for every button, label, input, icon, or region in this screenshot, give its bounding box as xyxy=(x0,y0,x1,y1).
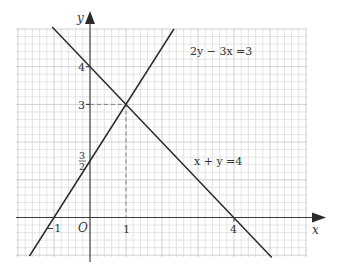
y-tick-label-4: 4 xyxy=(78,61,85,74)
y-tick-label-3: 3 xyxy=(78,99,85,112)
intersection-guide-lines xyxy=(90,104,126,217)
x-tick-label-1: 1 xyxy=(123,223,130,236)
y-axis-arrow-icon xyxy=(85,11,95,24)
x-axis-arrow-icon xyxy=(312,213,326,223)
origin-label: O xyxy=(78,221,88,235)
x-tick-label-neg1: −1 xyxy=(45,222,61,235)
y-axis-label: y xyxy=(76,11,84,25)
graph-canvas: y x O −1 1 4 4 3 3 2 2y − 3x =3 x + y =4 xyxy=(0,0,339,271)
fraction-numerator: 3 xyxy=(79,150,85,161)
x-axis-label: x xyxy=(312,223,319,237)
line-label-2y-minus-3x: 2y − 3x =3 xyxy=(190,45,252,58)
fraction-denominator: 2 xyxy=(79,161,85,172)
coordinate-graph: y x O −1 1 4 4 3 3 2 2y − 3x =3 x + y =4 xyxy=(0,0,339,271)
line-label-x-plus-y: x + y =4 xyxy=(194,155,242,168)
y-tick-label-three-halves: 3 2 xyxy=(79,150,87,172)
x-tick-label-4: 4 xyxy=(230,223,237,236)
